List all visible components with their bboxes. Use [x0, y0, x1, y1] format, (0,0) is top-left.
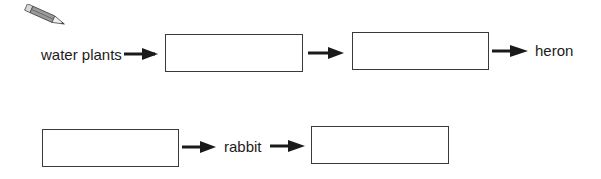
arrow-rabbit-to-box4 — [270, 140, 305, 152]
arrow-water-plants-to-box1 — [124, 48, 158, 60]
answer-box-3[interactable] — [42, 129, 179, 167]
answer-box-2[interactable] — [352, 32, 489, 70]
label-water-plants: water plants — [41, 46, 122, 64]
arrow-box3-to-rabbit — [182, 141, 216, 153]
label-heron: heron — [535, 42, 573, 60]
answer-box-1[interactable] — [165, 34, 303, 72]
label-rabbit: rabbit — [224, 138, 262, 156]
answer-box-4[interactable] — [311, 126, 449, 164]
arrow-box1-to-box2 — [308, 47, 344, 59]
arrow-box2-to-heron — [492, 45, 528, 57]
